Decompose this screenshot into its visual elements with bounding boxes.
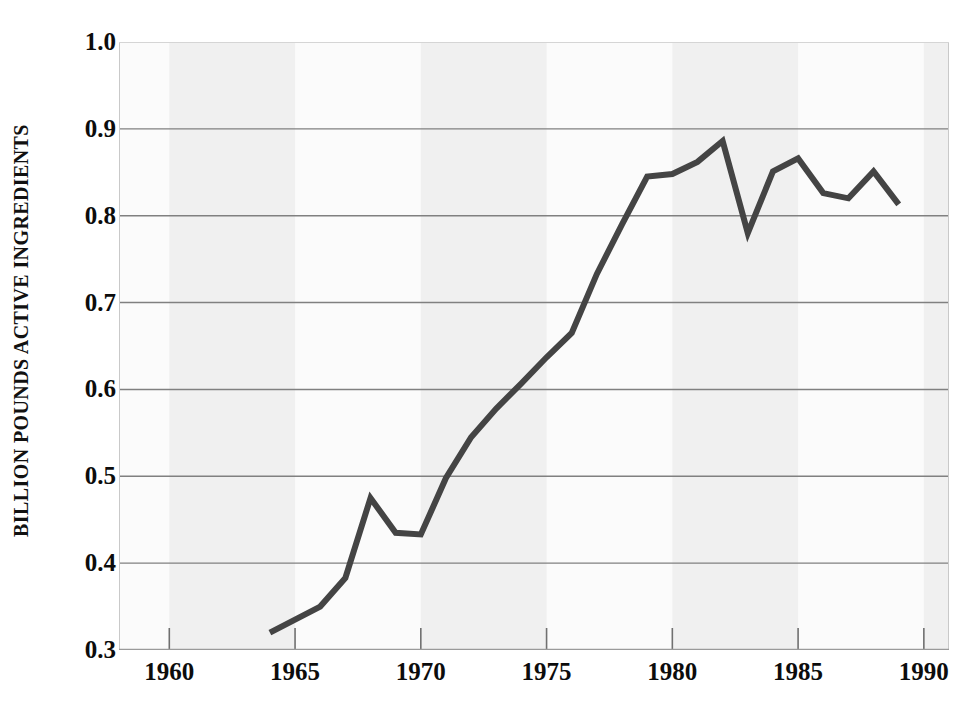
x-tick-label: 1960 bbox=[109, 658, 229, 686]
background-band bbox=[672, 42, 798, 650]
x-tick-label: 1990 bbox=[864, 658, 979, 686]
x-tick-label: 1970 bbox=[361, 658, 481, 686]
x-tick-label: 1980 bbox=[612, 658, 732, 686]
x-tick-label: 1975 bbox=[487, 658, 607, 686]
x-tick-label: 1985 bbox=[738, 658, 858, 686]
plot-area bbox=[119, 42, 949, 650]
background-band bbox=[169, 42, 295, 650]
chart-figure: BILLION POUNDS ACTIVE INGREDIENTS 0.30.4… bbox=[0, 0, 979, 720]
plot-svg bbox=[119, 42, 949, 650]
x-tick-label: 1965 bbox=[235, 658, 355, 686]
background-band bbox=[421, 42, 547, 650]
data-line-series bbox=[270, 141, 899, 633]
background-band bbox=[924, 42, 949, 650]
